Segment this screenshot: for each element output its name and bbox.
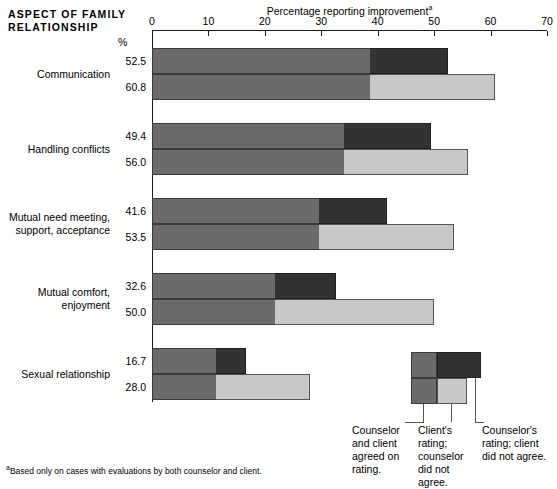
segment-agreed xyxy=(152,224,319,250)
segment-client-only xyxy=(216,374,310,400)
segment-counselor-only xyxy=(370,48,448,74)
footnote-text: Based only on cases with evaluations by … xyxy=(10,466,262,476)
category-label-line: Handling conflicts xyxy=(28,143,110,155)
segment-client-only xyxy=(344,149,468,175)
x-axis-tick-label-70: 70 xyxy=(541,15,553,27)
bar-client-rating xyxy=(152,74,495,100)
x-axis-tick-label-40: 40 xyxy=(372,15,384,27)
bar-counselor-rating xyxy=(152,123,431,149)
segment-agreed xyxy=(152,123,344,149)
client-value-label: 56.0 xyxy=(116,156,146,168)
counselor-value-label: 52.5 xyxy=(116,55,146,67)
segment-client-only xyxy=(370,74,495,100)
legend-label-agreed: Counselor and client agreed on rating. xyxy=(352,424,414,476)
category-label-line: enjoyment xyxy=(62,299,110,311)
bar-counselor-rating xyxy=(152,348,246,374)
legend-leader-client-vertical xyxy=(451,404,452,422)
legend-swatch-agreed-bottom xyxy=(411,378,437,404)
segment-counselor-only xyxy=(216,348,246,374)
counselor-value-label: 49.4 xyxy=(116,130,146,142)
segment-agreed xyxy=(152,299,275,325)
legend-swatch-counselor-only xyxy=(437,352,481,378)
x-axis-tick-label-0: 0 xyxy=(149,15,155,27)
category-label: Handling conflicts xyxy=(0,143,110,156)
x-axis-tick-label-30: 30 xyxy=(315,15,327,27)
client-value-label: 60.8 xyxy=(116,81,146,93)
category-label-line: Sexual relationship xyxy=(21,368,110,380)
bar-client-rating xyxy=(152,299,434,325)
x-axis-tick-70 xyxy=(547,31,548,36)
segment-agreed xyxy=(152,74,370,100)
segment-counselor-only xyxy=(319,198,387,224)
legend-swatch-client-only xyxy=(437,378,467,404)
x-axis-title-text: Percentage reporting improvement xyxy=(267,5,429,17)
category-label: Communication xyxy=(0,68,110,81)
bar-group: Handling conflicts49.456.0 xyxy=(0,123,557,175)
client-value-label: 50.0 xyxy=(116,306,146,318)
segment-agreed xyxy=(152,149,344,175)
counselor-value-label: 41.6 xyxy=(116,205,146,217)
category-label-line: Mutual need meeting, xyxy=(9,211,110,223)
category-label: Sexual relationship xyxy=(0,368,110,381)
bar-counselor-rating xyxy=(152,48,448,74)
segment-client-only xyxy=(319,224,454,250)
bar-group: Communication52.560.8 xyxy=(0,48,557,100)
chart-footnote: aBased only on cases with evaluations by… xyxy=(6,462,262,477)
legend-leader-counselor-horizontal xyxy=(475,422,484,423)
x-axis-tick-10 xyxy=(208,31,209,36)
category-label-line: support, acceptance xyxy=(15,224,110,236)
category-label-line: Communication xyxy=(37,68,110,80)
x-axis-tick-20 xyxy=(265,31,266,36)
category-label-line: Mutual comfort, xyxy=(38,286,110,298)
legend-label-counselor-only: Counselor's rating; client did not agree… xyxy=(482,424,554,463)
bar-counselor-rating xyxy=(152,198,387,224)
bar-client-rating xyxy=(152,224,454,250)
category-label: Mutual need meeting,support, acceptance xyxy=(0,211,110,237)
bar-client-rating xyxy=(152,374,310,400)
bar-counselor-rating xyxy=(152,273,336,299)
category-label: Mutual comfort,enjoyment xyxy=(0,286,110,312)
client-value-label: 28.0 xyxy=(116,381,146,393)
chart-corner-title: ASPECT OF FAMILY RELATIONSHIP xyxy=(8,8,148,34)
legend-swatch-grid xyxy=(411,352,481,404)
segment-agreed xyxy=(152,348,216,374)
legend-leader-counselor-vertical xyxy=(475,378,476,422)
x-axis-title-footnote-marker: a xyxy=(428,4,432,11)
segment-agreed xyxy=(152,273,275,299)
x-axis-tick-label-60: 60 xyxy=(485,15,497,27)
bar-group: Mutual need meeting,support, acceptance4… xyxy=(0,198,557,250)
bar-client-rating xyxy=(152,149,468,175)
client-value-label: 53.5 xyxy=(116,231,146,243)
segment-agreed xyxy=(152,48,370,74)
legend-leader-agreed-vertical xyxy=(423,404,424,422)
segment-agreed xyxy=(152,374,216,400)
bar-group: Mutual comfort,enjoyment32.650.0 xyxy=(0,273,557,325)
x-axis-tick-40 xyxy=(378,31,379,36)
x-axis-tick-30 xyxy=(321,31,322,36)
segment-counselor-only xyxy=(344,123,431,149)
counselor-value-label: 16.7 xyxy=(116,355,146,367)
x-axis-tick-label-20: 20 xyxy=(259,15,271,27)
segment-agreed xyxy=(152,198,319,224)
segment-counselor-only xyxy=(275,273,336,299)
x-axis-line xyxy=(152,30,547,31)
x-axis-tick-label-50: 50 xyxy=(428,15,440,27)
legend-label-client-only: Client's rating; counselor did not agree… xyxy=(418,424,476,489)
segment-client-only xyxy=(275,299,434,325)
legend-leader-agreed-horizontal xyxy=(405,422,424,423)
legend-swatch-agreed-top xyxy=(411,352,437,378)
x-axis-tick-0 xyxy=(152,31,153,36)
counselor-value-label: 32.6 xyxy=(116,280,146,292)
percent-symbol-label: % xyxy=(118,36,127,48)
x-axis-tick-60 xyxy=(491,31,492,36)
x-axis-tick-label-10: 10 xyxy=(203,15,215,27)
x-axis-tick-50 xyxy=(434,31,435,36)
